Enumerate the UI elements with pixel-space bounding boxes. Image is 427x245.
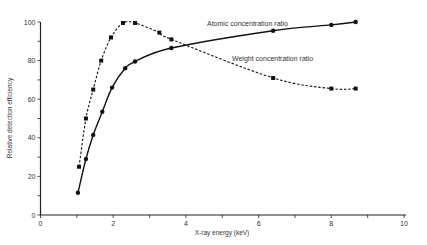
data-point <box>271 28 275 32</box>
y-tick-label: 60 <box>28 96 36 103</box>
data-point <box>133 59 137 63</box>
data-point <box>77 165 81 169</box>
x-axis-title: X-ray energy (keV) <box>195 229 250 237</box>
y-tick-label: 40 <box>28 134 36 141</box>
y-tick-label: 80 <box>28 57 36 64</box>
data-point <box>99 59 103 63</box>
data-point <box>100 110 104 114</box>
data-point <box>91 88 95 92</box>
series-weight <box>77 21 358 169</box>
x-tick-label: 4 <box>184 220 188 227</box>
data-point <box>91 133 95 137</box>
x-tick-label: 0 <box>39 220 43 227</box>
x-tick-label: 2 <box>111 220 115 227</box>
series-label-atomic: Atomic concentration ratio <box>207 20 288 27</box>
data-point <box>329 23 333 27</box>
axis-ticks: 0204060801000246810 <box>24 19 408 228</box>
y-tick-label: 0 <box>32 212 36 219</box>
data-point <box>109 35 113 39</box>
y-tick-label: 100 <box>24 19 36 26</box>
series-label-weight: Weight concentration ratio <box>232 55 313 63</box>
x-tick-label: 10 <box>400 220 408 227</box>
data-point <box>84 117 88 121</box>
data-point <box>169 46 173 50</box>
data-point <box>329 87 333 91</box>
data-point <box>84 157 88 161</box>
y-axis-title: Relative detection efficiency <box>6 77 14 158</box>
data-point <box>110 85 114 89</box>
data-point <box>123 66 127 70</box>
data-point <box>353 20 357 24</box>
data-point <box>157 31 161 35</box>
data-series <box>76 20 358 195</box>
data-point <box>76 191 80 195</box>
data-point <box>169 37 173 41</box>
data-point <box>271 76 275 80</box>
data-point <box>133 21 137 25</box>
data-point <box>354 87 358 91</box>
line-chart: 0204060801000246810 X-ray energy (keV) R… <box>0 0 427 245</box>
series-atomic <box>76 20 358 195</box>
data-point <box>121 21 125 25</box>
x-tick-label: 6 <box>257 220 261 227</box>
x-tick-label: 8 <box>329 220 333 227</box>
y-tick-label: 20 <box>28 173 36 180</box>
axes <box>41 22 407 215</box>
